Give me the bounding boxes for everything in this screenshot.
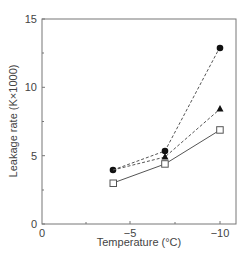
y-tick-0: 0: [31, 218, 37, 230]
y-tick-10: 10: [25, 81, 37, 93]
chart: 0 5 10 15 0 −5 −10 Temperature (°C) Leak…: [0, 0, 250, 258]
data-point: [217, 45, 224, 52]
data-point: [162, 153, 169, 160]
data-point: [217, 127, 224, 134]
series-filled-circle: [110, 45, 224, 174]
y-axis-title: Leakage rate (K×1000): [7, 65, 19, 178]
x-tick-0: 0: [39, 227, 45, 239]
plot-frame: [42, 19, 236, 224]
data-point: [162, 161, 169, 168]
data-point: [110, 180, 117, 187]
data-point: [217, 105, 224, 112]
x-axis-title: Temperature (°C): [97, 236, 181, 248]
y-tick-5: 5: [31, 150, 37, 162]
y-tick-15: 15: [25, 13, 37, 25]
x-tick-minus10: −10: [211, 227, 230, 239]
